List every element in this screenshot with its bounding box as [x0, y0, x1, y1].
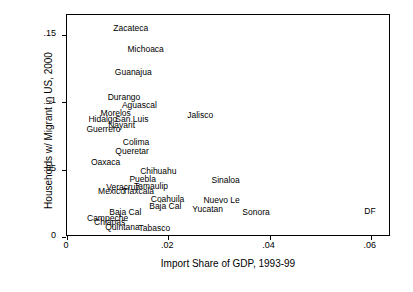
y-axis-tick-label: .05	[24, 163, 56, 173]
x-axis-label: Import Share of GDP, 1993-99	[66, 258, 390, 269]
y-axis-tick	[62, 102, 66, 103]
y-axis-tick-label: .15	[24, 28, 56, 38]
y-axis-label: Households w/ Migrant in US, 2000	[43, 21, 54, 241]
data-point-label: Mexico	[98, 187, 125, 196]
data-point-label: Guanajua	[115, 68, 152, 77]
y-axis-tick	[62, 35, 66, 36]
x-axis-tick-label: .04	[249, 240, 289, 250]
data-point-label: Guerrero	[86, 125, 120, 134]
data-point-label: Tabasco	[139, 224, 171, 233]
data-point-label: Zacateca	[113, 24, 148, 33]
x-axis-tick-label: 0	[46, 240, 86, 250]
data-point-label: Yucatan	[192, 205, 223, 214]
x-axis-tick-label: .06	[350, 240, 390, 250]
data-point-label: Tlaxcala	[122, 187, 154, 196]
y-axis-tick-label: .1	[24, 95, 56, 105]
data-point-label: Sinaloa	[211, 176, 239, 185]
data-point-label: Jalisco	[187, 111, 213, 120]
data-point-label: Baja Cal	[149, 202, 181, 211]
y-axis-tick	[62, 237, 66, 238]
data-point-label: DF	[364, 207, 375, 216]
data-point-label: Oaxaca	[91, 158, 120, 167]
data-point-label: Queretar	[115, 147, 149, 156]
y-axis-tick	[62, 170, 66, 171]
data-point-label: Sonora	[242, 208, 269, 217]
y-axis-tick-label: 0	[24, 230, 56, 240]
x-axis-tick-label: .02	[147, 240, 187, 250]
scatter-chart: Import Share of GDP, 1993-99 Households …	[0, 0, 413, 292]
data-point-label: Michoaca	[127, 45, 163, 54]
data-point-label: Quintana	[105, 223, 140, 232]
